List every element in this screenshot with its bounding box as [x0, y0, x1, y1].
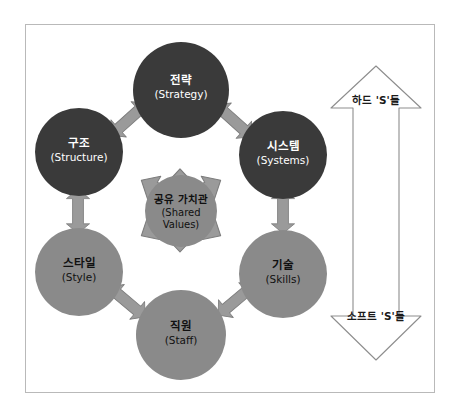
- node-shared-values-label-en-line1: (Shared: [161, 207, 200, 218]
- node-staff-label-en: (Staff): [165, 334, 198, 346]
- diagram-canvas: 전략 (Strategy) 구조 (Structure) 시스템 (System…: [0, 0, 458, 416]
- node-shared-values-label-en-line2: Values): [163, 219, 200, 230]
- node-style-label-en: (Style): [62, 271, 97, 283]
- node-style[interactable]: 스타일 (Style): [35, 228, 123, 316]
- node-shared-values[interactable]: 공유 가치관 (Shared Values): [145, 175, 217, 247]
- scale-label-soft: 소프트 'S'들: [347, 310, 405, 322]
- node-structure-label-en: (Structure): [50, 151, 107, 163]
- node-structure[interactable]: 구조 (Structure): [35, 108, 123, 196]
- node-staff-label-ko: 직원: [170, 319, 192, 333]
- node-skills[interactable]: 기술 (Skills): [239, 230, 327, 318]
- node-systems-label-en: (Systems): [257, 154, 310, 166]
- node-skills-label-ko: 기술: [272, 258, 294, 272]
- node-systems[interactable]: 시스템 (Systems): [239, 111, 327, 199]
- node-shared-values-label-ko: 공유 가치관: [154, 193, 208, 205]
- node-staff[interactable]: 직원 (Staff): [136, 290, 226, 380]
- node-strategy-label-en: (Strategy): [154, 88, 207, 100]
- node-style-label-ko: 스타일: [63, 256, 96, 270]
- node-strategy[interactable]: 전략 (Strategy): [133, 42, 229, 138]
- node-skills-label-en: (Skills): [265, 273, 300, 285]
- node-strategy-label-ko: 전략: [170, 73, 192, 87]
- node-systems-label-ko: 시스템: [267, 139, 300, 153]
- hard-soft-scale-arrow: 하드 'S'들 소프트 'S'들: [331, 66, 421, 360]
- scale-label-hard: 하드 'S'들: [352, 94, 400, 106]
- seven-s-diagram: 전략 (Strategy) 구조 (Structure) 시스템 (System…: [0, 0, 458, 416]
- node-structure-label-ko: 구조: [68, 136, 90, 150]
